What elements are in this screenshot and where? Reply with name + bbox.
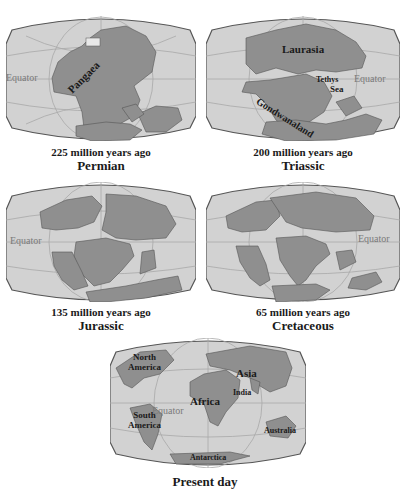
panel-jurassic: Equator 135 million years ago Jurassic [0, 172, 202, 332]
equator-label: Equator [358, 234, 390, 244]
continent-label-antarctica: Antarctica [190, 454, 226, 462]
equator-label: Equator [354, 74, 386, 84]
continent-label-africa: Africa [190, 396, 220, 407]
continent-label-laurasia: Laurasia [282, 44, 324, 55]
continent-label-north-america: North America [128, 352, 161, 372]
age-caption: 65 million years ago [202, 306, 404, 318]
panel-triassic: Laurasia Tethys Sea Equator Gondwanaland… [202, 0, 404, 172]
sea-label-sea: Sea [330, 85, 344, 94]
continent-label-asia: Asia [236, 368, 257, 379]
country-label-india: India [233, 389, 251, 397]
age-caption: 200 million years ago [202, 146, 404, 158]
label-line: America [128, 420, 161, 430]
panel-present-day: North America South America Equator Afri… [100, 332, 310, 492]
age-caption: 135 million years ago [0, 306, 202, 318]
equator-label: Equator [152, 406, 184, 416]
sea-label-tethys: Tethys [316, 76, 338, 84]
equator-label: Equator [10, 236, 42, 246]
continent-label-australia: Australia [264, 427, 296, 435]
age-caption: 225 million years ago [0, 146, 202, 158]
panel-cretaceous: Equator 65 million years ago Cretaceous [202, 172, 404, 332]
equator-label: Equator [6, 73, 38, 83]
label-line: America [128, 362, 161, 372]
panel-permian: Equator Pangaea 225 million years ago Pe… [0, 0, 202, 172]
period-caption: Present day [100, 474, 310, 490]
label-line: North [133, 352, 156, 362]
